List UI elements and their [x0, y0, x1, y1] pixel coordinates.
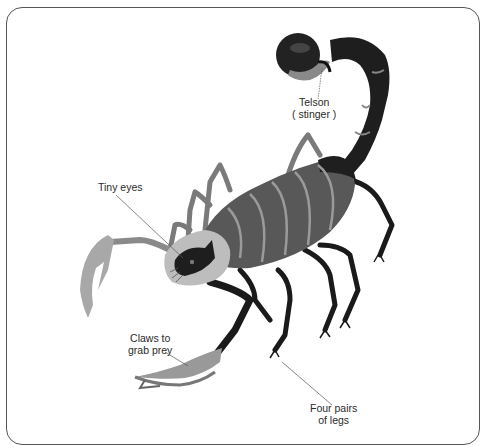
scorpion-illustration	[0, 0, 487, 448]
scorpion-tail	[330, 37, 389, 175]
label-telson: Telson ( stinger )	[292, 96, 336, 120]
eye-icon	[190, 260, 194, 264]
label-claws: Claws to grab prey	[128, 332, 172, 356]
left-claw	[80, 235, 170, 318]
label-legs: Four pairs of legs	[310, 402, 357, 426]
label-tiny-eyes: Tiny eyes	[98, 181, 143, 193]
telson	[276, 33, 330, 80]
